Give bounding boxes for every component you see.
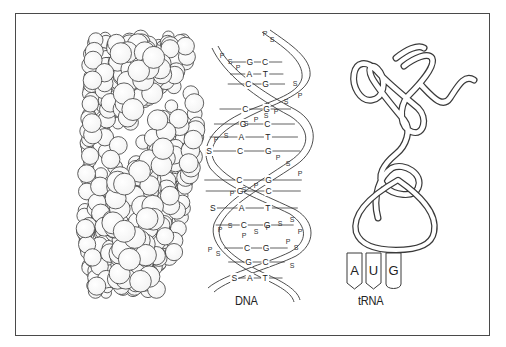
svg-text:P: P (220, 52, 225, 59)
svg-text:C: C (237, 146, 243, 156)
svg-text:S: S (228, 222, 233, 229)
trna-label: tRNA (358, 293, 383, 308)
base-pair-rungs: GCATCGCGGCATSCGCGGCSATCGCGGCSATPSPSPSPSS… (204, 30, 302, 283)
svg-text:P: P (218, 226, 223, 233)
svg-text:S: S (216, 250, 221, 257)
svg-text:G: G (262, 79, 269, 89)
svg-text:P: P (298, 228, 303, 235)
svg-text:S: S (210, 203, 216, 213)
double-helix-ribbon (206, 30, 313, 302)
svg-text:C: C (245, 79, 251, 89)
svg-text:G: G (265, 146, 272, 156)
svg-text:A: A (247, 273, 253, 283)
space-filling-dna-model (76, 30, 205, 298)
svg-text:T: T (263, 69, 268, 79)
svg-text:S: S (294, 244, 299, 251)
svg-text:P: P (242, 232, 247, 239)
svg-text:T: T (262, 273, 267, 283)
anticodon-base-u: U (369, 263, 378, 278)
svg-text:P: P (263, 30, 268, 37)
svg-text:P: P (236, 64, 241, 71)
trna-structure (354, 47, 474, 250)
svg-text:S: S (278, 220, 283, 227)
svg-text:S: S (244, 120, 249, 127)
anticodon-base-g: G (388, 263, 398, 278)
svg-text:P: P (298, 170, 303, 177)
svg-text:S: S (224, 132, 229, 139)
svg-text:T: T (265, 132, 270, 142)
svg-text:P: P (214, 136, 219, 143)
svg-text:A: A (239, 132, 245, 142)
svg-text:P: P (298, 92, 303, 99)
svg-text:C: C (262, 57, 268, 67)
dna-label: DNA (235, 293, 258, 308)
anticodon-base-a: A (350, 263, 359, 278)
svg-text:S: S (293, 80, 298, 87)
svg-text:G: G (263, 243, 270, 253)
svg-text:S: S (270, 36, 275, 43)
svg-text:A: A (239, 203, 245, 213)
svg-text:S: S (286, 160, 291, 167)
svg-text:G: G (247, 57, 254, 67)
svg-text:P: P (266, 224, 271, 231)
svg-text:S: S (231, 273, 237, 283)
svg-text:P: P (254, 182, 259, 189)
svg-text:C: C (241, 220, 247, 230)
svg-text:S: S (284, 98, 289, 105)
svg-text:P: P (230, 190, 235, 197)
svg-text:P: P (254, 116, 259, 123)
svg-text:S: S (254, 228, 259, 235)
svg-text:C: C (265, 186, 271, 196)
svg-text:T: T (265, 203, 270, 213)
svg-text:G: G (265, 175, 272, 185)
svg-text:C: C (242, 104, 248, 114)
svg-text:P: P (208, 246, 213, 253)
svg-text:S: S (242, 186, 247, 193)
svg-text:C: C (236, 175, 242, 185)
svg-text:P: P (286, 238, 291, 245)
svg-text:S: S (264, 112, 269, 119)
svg-text:P: P (274, 108, 279, 115)
svg-text:C: C (244, 243, 250, 253)
svg-text:C: C (264, 119, 270, 129)
svg-text:C: C (262, 257, 268, 267)
svg-text:S: S (290, 216, 295, 223)
svg-text:G: G (245, 257, 252, 267)
svg-text:S: S (206, 146, 212, 156)
svg-text:P: P (276, 154, 281, 161)
svg-text:S: S (228, 58, 233, 65)
svg-text:S: S (290, 262, 295, 269)
svg-text:A: A (246, 69, 252, 79)
